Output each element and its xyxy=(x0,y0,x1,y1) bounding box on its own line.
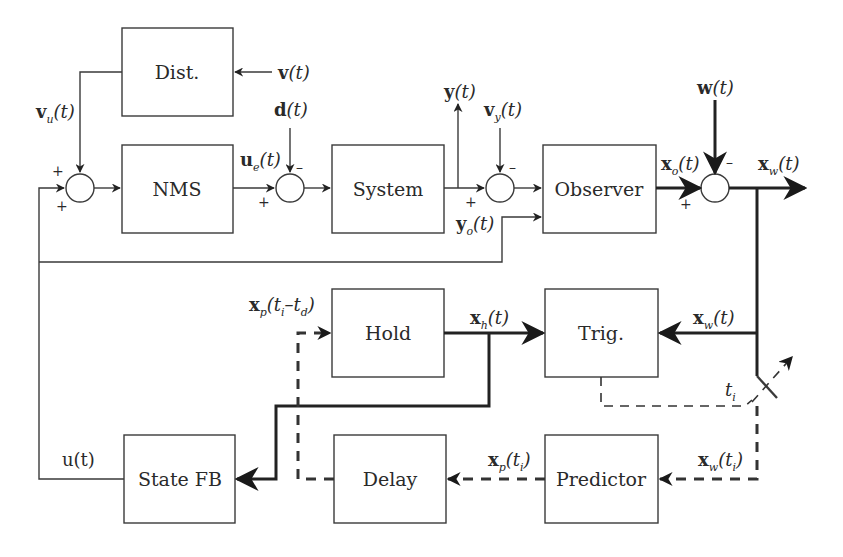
label-xo: xo(t) xyxy=(661,153,700,178)
system-label: System xyxy=(353,178,423,200)
trig-label: Trig. xyxy=(578,322,624,344)
delay-label: Delay xyxy=(363,468,418,490)
label-xw-ti: xw(ti) xyxy=(698,449,743,474)
state-fb-block: State FB xyxy=(124,435,235,523)
svg-text:+: + xyxy=(52,163,64,179)
predictor-label: Predictor xyxy=(556,468,647,490)
nms-label: NMS xyxy=(152,178,201,200)
label-v: v(t) xyxy=(277,62,310,83)
thin-connections xyxy=(39,72,541,479)
svg-text:+: + xyxy=(258,194,270,210)
label-u: u(t) xyxy=(62,449,95,470)
sum-junction-observer-error xyxy=(701,174,729,202)
sum-junction-disturbance xyxy=(276,174,304,202)
label-xp-delayed: xp(ti–td) xyxy=(249,294,315,319)
state-fb-label: State FB xyxy=(138,468,222,490)
label-y: y(t) xyxy=(443,81,476,102)
svg-text:+: + xyxy=(56,198,68,214)
system-block: System xyxy=(332,145,444,233)
label-xp-ti: xp(ti) xyxy=(488,449,531,474)
trig-block: Trig. xyxy=(545,289,658,377)
svg-text:+: + xyxy=(680,196,692,212)
signal-labels: v(t) vu(t) d(t) ue(t) y(t) vy(t) yo(t) w… xyxy=(35,62,799,474)
sum-junction-measurement-noise xyxy=(486,174,514,202)
label-vy: vy(t) xyxy=(483,99,522,124)
label-w: w(t) xyxy=(696,77,734,98)
event-triggered-control-block-diagram: Dist. NMS System Observer Hold Trig. Sta… xyxy=(0,0,843,557)
label-ue: ue(t) xyxy=(240,149,281,174)
svg-text:–: – xyxy=(726,154,733,170)
observer-block: Observer xyxy=(543,145,656,233)
delay-block: Delay xyxy=(334,435,446,523)
svg-text:–: – xyxy=(509,159,516,175)
thick-connections xyxy=(237,100,805,479)
sum-junction-input xyxy=(66,174,94,202)
label-yo: yo(t) xyxy=(455,213,494,238)
svg-text:–: – xyxy=(296,159,303,175)
hold-block: Hold xyxy=(332,289,444,377)
svg-text:+: + xyxy=(465,194,477,210)
dist-label: Dist. xyxy=(155,61,200,83)
label-xh: xh(t) xyxy=(470,307,509,332)
label-xw-output: xw(t) xyxy=(758,153,799,178)
label-vu: vu(t) xyxy=(35,101,75,126)
label-d: d(t) xyxy=(274,99,308,120)
dist-block: Dist. xyxy=(122,28,233,116)
label-ti: ti xyxy=(725,379,736,404)
observer-label: Observer xyxy=(555,178,645,200)
hold-label: Hold xyxy=(365,322,411,344)
label-xw-trig: xw(t) xyxy=(693,307,734,332)
predictor-block: Predictor xyxy=(545,435,658,523)
nms-block: NMS xyxy=(122,145,233,233)
